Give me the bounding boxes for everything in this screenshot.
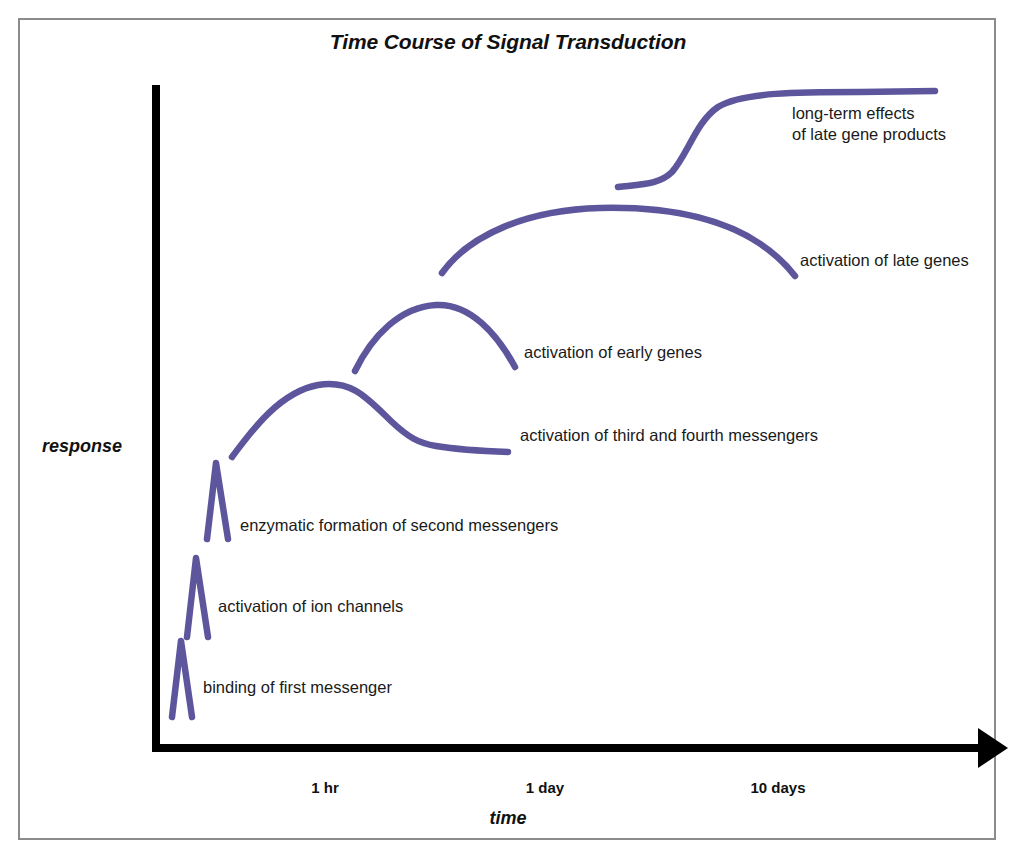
annotation-binding-of-first-messenger: binding of first messenger xyxy=(203,677,392,698)
x-tick-label-1-day: 1 day xyxy=(526,779,564,796)
curve-enzymatic-formation-of-second-messengers xyxy=(207,463,228,539)
curve-activation-of-ion-channels xyxy=(187,558,208,637)
annotation-activation-of-early-genes: activation of early genes xyxy=(524,342,702,363)
curve-binding-of-first-messenger xyxy=(172,641,192,717)
x-tick-label-10-days: 10 days xyxy=(750,779,805,796)
annotation-activation-of-third-and-fourth-messengers: activation of third and fourth messenger… xyxy=(520,425,818,446)
curve-activation-of-late-genes xyxy=(442,208,795,276)
annotation-enzymatic-formation-of-second-messengers: enzymatic formation of second messengers xyxy=(240,515,558,536)
annotation-activation-of-ion-channels: activation of ion channels xyxy=(218,596,403,617)
annotation-long-term-effects-line1: long-term effects xyxy=(792,103,946,124)
annotation-long-term-effects-line2: of late gene products xyxy=(792,124,946,145)
figure-canvas: Time Course of Signal Transduction xyxy=(0,0,1016,861)
x-tick-label-1-hr: 1 hr xyxy=(311,779,339,796)
curve-activation-of-third-and-fourth-messengers xyxy=(232,384,508,457)
curve-activation-of-early-genes xyxy=(355,305,515,371)
y-axis-title: response xyxy=(42,436,122,457)
annotation-activation-of-late-genes: activation of late genes xyxy=(800,250,969,271)
x-axis-title: time xyxy=(0,808,1016,829)
annotation-long-term-effects: long-term effects of late gene products xyxy=(792,103,946,145)
